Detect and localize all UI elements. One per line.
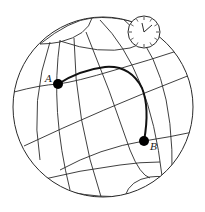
meridian (37, 42, 50, 160)
meridian (57, 40, 70, 190)
point-a-label: A (44, 73, 52, 84)
point-b-marker (139, 136, 149, 146)
north-polar-cap (40, 18, 92, 44)
meridian (86, 32, 150, 178)
great-circle-path (58, 67, 147, 141)
globe-diagram: A B (0, 0, 205, 212)
parallel (40, 162, 160, 180)
point-a-marker (53, 79, 63, 89)
point-b-label: B (149, 141, 157, 152)
south-polar-cap (125, 176, 172, 196)
clock-icon (128, 16, 160, 48)
